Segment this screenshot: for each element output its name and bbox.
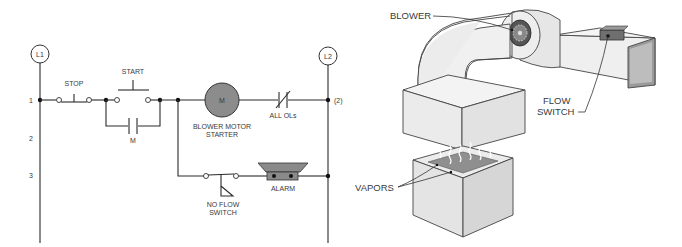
cross-reference: (2) [334,97,343,105]
svg-text:FLOW: FLOW [543,95,570,106]
svg-text:ALARM: ALARM [271,185,295,192]
svg-text:VAPORS: VAPORS [355,182,394,193]
svg-text:START: START [122,68,145,75]
svg-text:STOP: STOP [65,80,84,87]
blower-illustration: BLOWER FLOW SWITCH VAPORS [355,10,655,237]
svg-text:M: M [219,97,225,104]
svg-text:SWITCH: SWITCH [209,209,237,216]
no-flow-switch: NO FLOW SWITCH [204,174,240,217]
rung-number-3: 3 [29,172,33,179]
blower-motor-starter-coil: M BLOWER MOTOR STARTER [193,83,251,138]
svg-text:SWITCH: SWITCH [537,106,575,117]
rung-number-2: 2 [29,135,33,142]
ladder-diagram: L1 L2 1 2 3 STOP START [29,45,343,243]
exhaust-hood [403,75,525,150]
start-pushbutton: START [115,68,151,103]
vapor-tank [413,142,513,237]
flow-switch-box [600,26,628,40]
stop-pushbutton: STOP [57,80,92,103]
diagram-canvas: L1 L2 1 2 3 STOP START [0,0,682,247]
l2-label: L2 [324,53,332,60]
svg-text:ALL OLs: ALL OLs [270,112,297,119]
svg-text:STARTER: STARTER [206,131,238,138]
svg-text:M: M [130,137,136,144]
l1-label: L1 [36,51,44,58]
svg-text:BLOWER MOTOR: BLOWER MOTOR [193,123,251,130]
svg-text:NO FLOW: NO FLOW [207,201,240,208]
alarm-horn: ALARM [258,163,308,192]
rung-number-1: 1 [29,97,33,104]
seal-in-contact-m: M [106,100,160,144]
overload-contacts: ALL OLs [270,91,297,119]
svg-text:BLOWER: BLOWER [390,10,431,21]
